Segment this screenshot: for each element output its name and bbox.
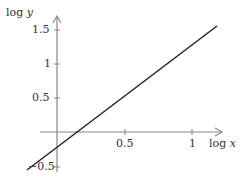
y-tick-label-1.5: 1.5 <box>32 23 50 36</box>
x-axis-label: log x <box>209 137 236 150</box>
y-tick-label-1: 1 <box>44 57 51 70</box>
y-tick-label-0.5: 0.5 <box>32 91 50 104</box>
x-tick-label-0.5: 0.5 <box>116 137 134 150</box>
y-axis-label: log y <box>6 6 33 19</box>
y-tick-label-neg0.5: −0.5 <box>28 160 55 173</box>
x-tick-label-1: 1 <box>189 137 196 150</box>
